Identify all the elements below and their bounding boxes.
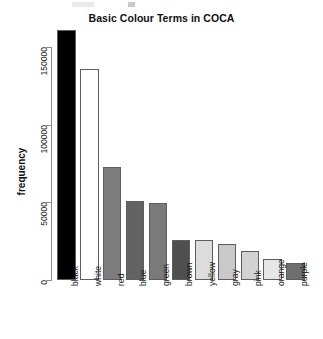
x-label-blue: blue — [138, 270, 148, 286]
x-label-gray: gray — [230, 269, 240, 286]
bar-red — [103, 167, 121, 280]
x-label-orange: orange — [276, 259, 286, 286]
y-tick-label-text: 0 — [39, 280, 49, 285]
y-tick-label-text: 50000 — [39, 202, 49, 226]
chart-title: Basic Colour Terms in COCA — [0, 12, 323, 24]
bar-white — [80, 69, 98, 280]
y-axis-title: frequency — [0, 161, 16, 179]
bar-black — [57, 30, 75, 280]
y-tick-label-text: 150000 — [39, 47, 49, 75]
x-label-pink: pink — [253, 270, 263, 286]
y-tick-label-text: 100000 — [39, 125, 49, 153]
x-label-red: red — [116, 274, 126, 286]
x-axis-labels: blackwhiteredbluegreenbrownyellowgraypin… — [55, 284, 307, 339]
cropped-artifact — [72, 2, 94, 7]
x-label-green: green — [161, 264, 171, 286]
bar-blue — [126, 201, 144, 280]
cropped-artifact — [128, 2, 135, 7]
y-axis-line — [51, 47, 52, 281]
x-label-white: white — [93, 266, 103, 286]
bars-layer — [55, 28, 307, 280]
y-axis-title-label: frequency — [16, 147, 27, 195]
x-label-purple: purple — [299, 262, 309, 286]
x-label-black: black — [70, 266, 80, 286]
x-label-brown: brown — [184, 263, 194, 286]
x-label-yellow: yellow — [207, 262, 217, 286]
bar-chart: Basic Colour Terms in COCA frequency 050… — [0, 0, 323, 339]
